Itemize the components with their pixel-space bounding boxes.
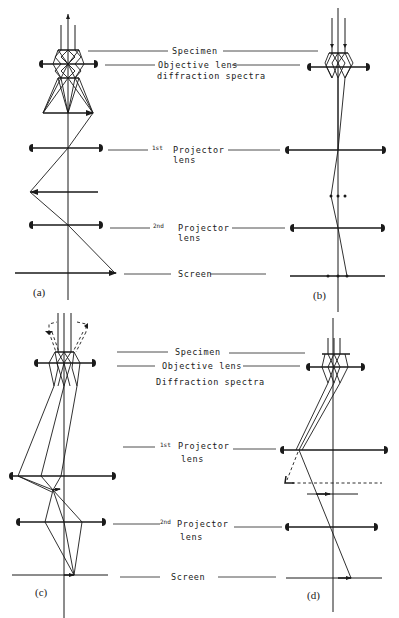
label-projector-2-2: Projector: [177, 519, 228, 529]
virtual-image: [285, 476, 294, 483]
svg-text:2nd: 2nd: [160, 518, 171, 525]
second-projector-lens: [16, 518, 106, 526]
first-projector-lens: [280, 446, 388, 454]
panel-d: (d): [280, 318, 388, 612]
label-projector-1-2: Projector: [178, 441, 229, 451]
panel-label-c: (c): [35, 586, 48, 599]
label-projector-1: Projector: [173, 145, 224, 155]
svg-text:1st: 1st: [160, 441, 171, 448]
label-screen-2: Screen: [171, 572, 205, 582]
svg-text:lens: lens: [178, 233, 201, 243]
panel-b: (b): [285, 8, 386, 312]
panel-a: (a): [15, 14, 116, 300]
first-projector-lens: [285, 146, 386, 154]
label-screen: Screen: [178, 269, 212, 279]
intermediate-image: [52, 489, 60, 490]
label-objective-2: Objective lens: [162, 361, 242, 371]
panel-label-d: (d): [307, 589, 320, 602]
top-labels: Specimen Objective lens diffraction spec…: [88, 46, 318, 279]
label-specimen-2: Specimen: [175, 347, 221, 357]
svg-text:1st: 1st: [152, 144, 163, 151]
label-specimen: Specimen: [172, 46, 218, 56]
svg-text:lens: lens: [181, 454, 204, 464]
label-projector-2: Projector: [178, 223, 229, 233]
label-diffraction-spectra: diffraction spectra: [157, 71, 266, 81]
bottom-labels: Specimen Objective lens Diffraction spec…: [113, 347, 305, 582]
panel-c: (c): [9, 313, 116, 618]
label-diffraction-spectra-2: Diffraction spectra: [156, 377, 265, 387]
label-objective: Objective lens: [158, 60, 238, 70]
second-projector-lens: [29, 221, 103, 229]
electron-microscope-ray-diagram: (a): [0, 0, 399, 618]
diffraction-spots: [330, 195, 347, 198]
panel-label-a: (a): [33, 286, 46, 299]
panel-label-b: (b): [313, 289, 326, 302]
svg-text:2nd: 2nd: [153, 222, 164, 229]
svg-text:lens: lens: [173, 155, 196, 165]
svg-text:lens: lens: [180, 532, 203, 542]
